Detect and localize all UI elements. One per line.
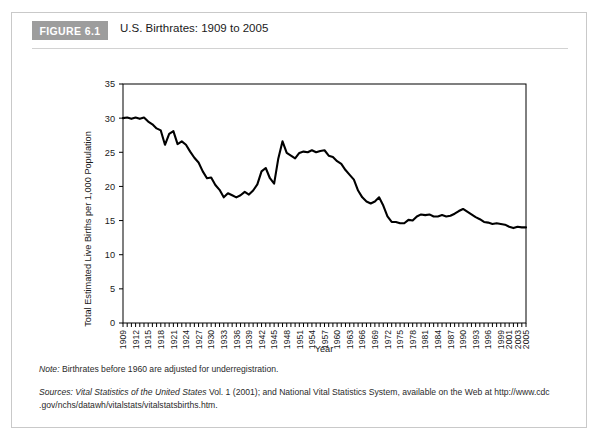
- x-tick-label: 2005: [521, 330, 531, 349]
- notes-block: Note: Birthrates before 1960 are adjuste…: [39, 363, 569, 412]
- x-tick-label: 1978: [408, 330, 418, 349]
- y-axis-ticks: 05101520253035: [105, 79, 123, 328]
- x-tick-label: 1933: [219, 330, 229, 349]
- chart-area: Total Estimated Live Births per 1,000 Po…: [12, 49, 588, 359]
- y-axis-title: Total Estimated Live Births per 1,000 Po…: [83, 131, 93, 327]
- y-tick-label: 20: [105, 182, 115, 192]
- x-tick-label: 1945: [269, 330, 279, 349]
- birthrate-line-chart: Total Estimated Live Births per 1,000 Po…: [12, 49, 588, 359]
- x-tick-label: 1960: [332, 330, 342, 349]
- x-tick-label: 1993: [471, 330, 481, 349]
- figure-number-badge: FIGURE 6.1: [32, 21, 108, 40]
- x-tick-label: 1987: [446, 330, 456, 349]
- sources-text: Vol. 1 (2001); and National Vital Statis…: [207, 387, 550, 397]
- y-tick-label: 0: [110, 318, 115, 328]
- y-tick-label: 10: [105, 250, 115, 260]
- x-tick-label: 1996: [483, 330, 493, 349]
- x-tick-label: 1966: [357, 330, 367, 349]
- x-tick-label: 1972: [383, 330, 393, 349]
- x-tick-label: 1909: [118, 330, 128, 349]
- x-tick-label: 1936: [232, 330, 242, 349]
- y-tick-label: 30: [105, 114, 115, 124]
- sources-line: Sources: Vital Statistics of the United …: [39, 386, 569, 412]
- x-tick-label: 1981: [420, 330, 430, 349]
- x-tick-label: 1975: [395, 330, 405, 349]
- figure-header: FIGURE 6.1 U.S. Birthrates: 1909 to 2005: [12, 13, 586, 41]
- x-tick-label: 1915: [143, 330, 153, 349]
- x-axis-title-text: Year: [315, 344, 334, 354]
- x-tick-label: 1924: [181, 330, 191, 349]
- x-tick-label: 1990: [458, 330, 468, 349]
- x-tick-label: 1942: [257, 330, 267, 349]
- note-line: Note: Birthrates before 1960 are adjuste…: [39, 363, 569, 375]
- x-tick-label: 1921: [169, 330, 179, 349]
- sources-label: Sources:: [39, 387, 73, 397]
- x-tick-label: 1918: [156, 330, 166, 349]
- note-label: Note:: [39, 364, 60, 374]
- x-tick-label: 1912: [131, 330, 141, 349]
- plot-frame: [123, 84, 526, 323]
- y-axis-title-text: Total Estimated Live Births per 1,000 Po…: [83, 131, 93, 327]
- x-tick-label: 1927: [194, 330, 204, 349]
- x-tick-label: 1951: [295, 330, 305, 349]
- note-text: Birthrates before 1960 are adjusted for …: [60, 364, 279, 374]
- y-tick-label: 25: [105, 148, 115, 158]
- sources-text-line2: .gov/nchs/datawh/vitalstats/vitalstatsbi…: [39, 400, 218, 410]
- x-tick-label: 1930: [206, 330, 216, 349]
- x-tick-label: 1984: [433, 330, 443, 349]
- figure-container: FIGURE 6.1 U.S. Birthrates: 1909 to 2005…: [11, 12, 587, 428]
- x-tick-label: 1963: [345, 330, 355, 349]
- x-tick-label: 1948: [282, 330, 292, 349]
- x-tick-label: 1939: [244, 330, 254, 349]
- figure-title: U.S. Birthrates: 1909 to 2005: [120, 22, 268, 34]
- y-tick-label: 5: [110, 284, 115, 294]
- birthrate-data-line: [123, 117, 526, 228]
- sources-italic-title: Vital Statistics of the United States: [73, 387, 207, 397]
- x-tick-label: 1969: [370, 330, 380, 349]
- y-tick-label: 35: [105, 79, 115, 89]
- y-tick-label: 15: [105, 216, 115, 226]
